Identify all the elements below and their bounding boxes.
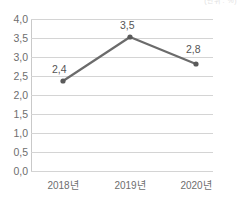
line-chart: (단위 : %) 4,0 3,5 3,0 2,5 2,0 1,5 1,0 0,5…	[0, 0, 244, 204]
series-line	[63, 37, 196, 81]
data-label-2019: 3,5	[120, 20, 135, 31]
data-label-2018: 2,4	[52, 64, 67, 75]
data-point-marker	[60, 78, 65, 83]
data-point-marker	[193, 61, 198, 66]
data-point-marker	[127, 34, 132, 39]
data-label-2020: 2,8	[186, 44, 201, 55]
